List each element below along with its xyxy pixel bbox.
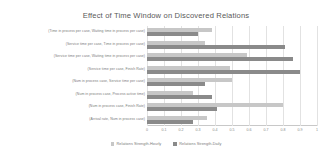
bar-group bbox=[147, 101, 317, 114]
bar-group bbox=[147, 64, 317, 77]
bar-group bbox=[147, 89, 317, 102]
x-tick-label: 0.9 bbox=[298, 128, 303, 132]
bar-group bbox=[147, 51, 317, 64]
x-tick-label: 0.3 bbox=[196, 128, 201, 132]
x-axis-tick-labels: 00.10.20.30.40.50.60.70.80.91 bbox=[147, 128, 317, 138]
bar-daily bbox=[147, 107, 217, 111]
bar-group bbox=[147, 114, 317, 127]
bar-daily bbox=[147, 120, 193, 124]
bar-daily bbox=[147, 57, 293, 61]
bar-daily bbox=[147, 82, 205, 86]
x-tick-label: 0.6 bbox=[247, 128, 252, 132]
bar-daily bbox=[147, 95, 212, 99]
bar-daily bbox=[147, 32, 198, 36]
chart-container: Effect of Time Window on Discovered Rela… bbox=[0, 0, 332, 161]
category-label: (Num in process case, Process active tim… bbox=[6, 93, 145, 97]
x-tick-label: 0.8 bbox=[281, 128, 286, 132]
bar-group bbox=[147, 39, 317, 52]
x-tick-label: 0.7 bbox=[264, 128, 269, 132]
legend-swatch-daily-icon bbox=[173, 142, 177, 146]
legend-label-hours: Relations Strength-Hourly bbox=[117, 142, 162, 146]
x-tick-label: 0.2 bbox=[179, 128, 184, 132]
category-axis: (Time in process per case, Waiting time … bbox=[6, 26, 145, 126]
bar-group bbox=[147, 26, 317, 39]
category-label: (Service time per case, Time in process … bbox=[6, 43, 145, 47]
x-tick-label: 0.4 bbox=[213, 128, 218, 132]
x-tick-label: 1 bbox=[316, 128, 318, 132]
category-label: (Arrival rate, Num in process case) bbox=[6, 118, 145, 122]
category-label: (Num in process case, Service time per c… bbox=[6, 80, 145, 84]
category-label: (Service time per case, Finish Rate) bbox=[6, 68, 145, 72]
x-tick-label: 0.5 bbox=[230, 128, 235, 132]
plot-area bbox=[147, 26, 317, 126]
bar-daily bbox=[147, 45, 285, 49]
bar-group bbox=[147, 76, 317, 89]
chart-legend: Relations Strength-Hourly Relations Stre… bbox=[0, 142, 332, 146]
gridline bbox=[317, 26, 318, 126]
legend-item-hours[interactable]: Relations Strength-Hourly bbox=[111, 142, 162, 146]
legend-item-daily[interactable]: Relations Strength-Daily bbox=[173, 142, 221, 146]
category-label: (Service time per case, Waiting time in … bbox=[6, 55, 145, 59]
category-label: (Num in process case, Finish Rate) bbox=[6, 105, 145, 109]
x-tick-label: 0 bbox=[146, 128, 148, 132]
legend-swatch-hours-icon bbox=[111, 142, 115, 146]
legend-label-daily: Relations Strength-Daily bbox=[179, 142, 221, 146]
chart-title: Effect of Time Window on Discovered Rela… bbox=[0, 11, 332, 20]
category-label: (Time in process per case, Waiting time … bbox=[6, 30, 145, 34]
bar-daily bbox=[147, 70, 300, 74]
plot-wrapper: (Time in process per case, Waiting time … bbox=[0, 26, 332, 126]
x-tick-label: 0.1 bbox=[162, 128, 167, 132]
